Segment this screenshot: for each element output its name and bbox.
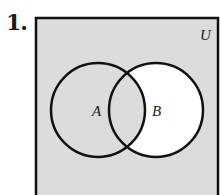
set-a-label: A [91,103,102,119]
set-b-label: B [152,103,161,119]
universe-label: U [200,27,212,43]
venn-diagram: U A B [0,0,221,195]
